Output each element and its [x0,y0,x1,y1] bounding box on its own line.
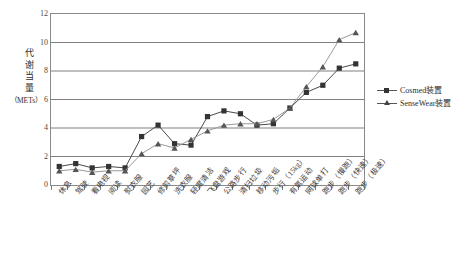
data-point-s1-1[interactable] [73,161,78,166]
x-axis-tick-0 [51,186,52,190]
y-axis-tick-2: 2 [32,153,48,161]
data-point-s2-18[interactable] [353,30,359,35]
series-line-2 [59,33,356,173]
triangle-marker-icon [377,99,397,109]
legend-label-sensewear: SenseWear装置 [400,99,451,109]
data-point-s2-17[interactable] [336,37,342,42]
legend-item-sensewear[interactable]: SenseWear装置 [377,97,451,110]
data-point-s1-10[interactable] [221,108,226,113]
data-point-s2-15[interactable] [303,84,309,89]
data-point-s2-9[interactable] [204,128,210,133]
data-point-s1-16[interactable] [320,83,325,88]
y-axis-tick-10: 10 [32,39,48,47]
legend-label-cosmed: Cosmed装置 [400,86,442,96]
chart-container: 代 谢 当 量 （METs） 024681012 休息驾驶看电视阅读熨衣服园艺修… [0,0,465,272]
plot-svg [51,14,364,185]
y-axis-tick-4: 4 [32,124,48,132]
data-point-s1-17[interactable] [337,66,342,71]
y-axis-tick-labels: 024681012 [28,0,48,272]
data-point-s1-11[interactable] [238,111,243,116]
plot-area [50,13,365,186]
data-point-s1-8[interactable] [188,143,193,148]
chart-legend: Cosmed装置 SenseWear装置 [377,84,451,110]
square-marker-icon [377,86,397,96]
data-point-s2-16[interactable] [320,64,326,69]
y-axis-tick-6: 6 [32,96,48,104]
data-point-s2-6[interactable] [155,141,161,146]
data-point-s2-8[interactable] [188,137,194,142]
y-axis-tick-12: 12 [32,10,48,18]
y-axis-tick-8: 8 [32,67,48,75]
data-point-s1-5[interactable] [139,134,144,139]
data-point-s1-6[interactable] [155,123,160,128]
data-point-s1-9[interactable] [205,114,210,119]
data-point-s1-18[interactable] [353,61,358,66]
y-axis-tick-0: 0 [32,181,48,189]
data-point-s1-15[interactable] [304,90,309,95]
legend-item-cosmed[interactable]: Cosmed装置 [377,84,451,97]
